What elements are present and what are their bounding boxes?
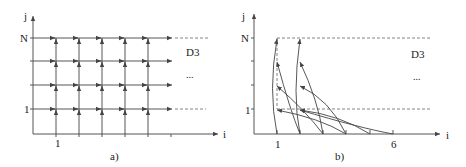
y-axis-label-b: j [241, 10, 245, 22]
x-axis-label-a: i [223, 128, 226, 140]
x-axis-label-b: i [446, 129, 449, 141]
caption-a: a) [110, 150, 119, 163]
dependency-arrow [300, 110, 370, 134]
y-axis-label-a: j [23, 10, 27, 22]
region-label-b: D3 [411, 48, 425, 60]
y-tick-n-b: N [241, 32, 249, 44]
x-tick-6-b: 6 [391, 138, 397, 150]
panel-b: j i N 1 1 6 D3 ... b) [241, 10, 449, 163]
caption-b: b) [335, 150, 345, 163]
y-tick-n-a: N [20, 32, 28, 44]
y-tick-1-a: 1 [24, 103, 30, 115]
ellipsis-a: ... [186, 69, 194, 80]
x-tick-1-a: 1 [55, 137, 61, 149]
panel-a: j i N 1 1 D3 ... a) [20, 10, 226, 163]
grid-a [30, 38, 208, 137]
diagram-canvas: j i N 1 1 D3 ... a) j i N 1 1 6 D3 ... b… [0, 0, 466, 167]
x-tick-1-b: 1 [275, 138, 281, 150]
y-tick-1-b: 1 [245, 104, 251, 116]
dependency-arrow [273, 39, 278, 134]
dependency-arrow [300, 86, 346, 134]
dependency-arrow [296, 39, 300, 134]
region-label-a: D3 [186, 46, 200, 58]
ellipsis-b: ... [413, 71, 421, 82]
grid-b [251, 38, 430, 134]
